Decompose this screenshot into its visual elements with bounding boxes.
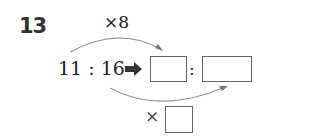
- right-arrow-icon: [125, 62, 142, 76]
- given-ratio: 11 : 16: [58, 57, 125, 79]
- answer-blank-2[interactable]: [202, 56, 252, 82]
- answer-blank-1[interactable]: [150, 56, 187, 82]
- answer-colon: :: [189, 59, 195, 79]
- bottom-multiplier-sign: ×: [145, 106, 159, 126]
- multiplier-blank[interactable]: [165, 106, 193, 133]
